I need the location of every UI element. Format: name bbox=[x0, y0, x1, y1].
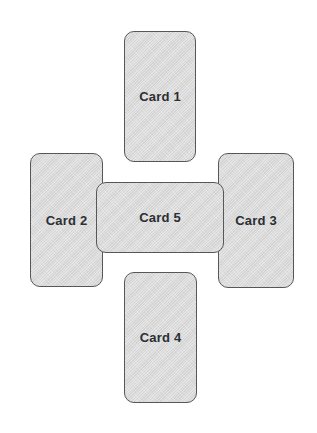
card-left[interactable]: Card 2 bbox=[30, 153, 103, 287]
card-center[interactable]: Card 5 bbox=[96, 182, 224, 253]
card-right[interactable]: Card 3 bbox=[218, 153, 294, 288]
card-top[interactable]: Card 1 bbox=[124, 31, 196, 162]
card-label: Card 1 bbox=[139, 90, 181, 103]
card-bottom[interactable]: Card 4 bbox=[124, 272, 197, 403]
card-layout-canvas: Card 1 Card 2 Card 3 Card 4 Card 5 bbox=[0, 0, 317, 433]
card-label: Card 4 bbox=[140, 331, 182, 344]
card-label: Card 5 bbox=[139, 211, 181, 224]
card-label: Card 2 bbox=[46, 214, 88, 227]
card-label: Card 3 bbox=[235, 214, 277, 227]
